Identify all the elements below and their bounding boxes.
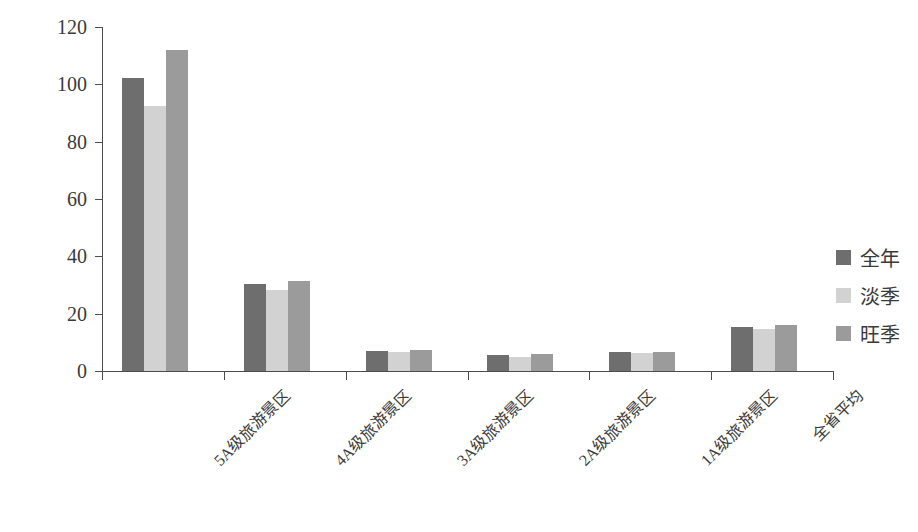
x-tick (346, 371, 347, 380)
bar-chart: 平均门票价格（元/景区） 020406080100120 5A级旅游景区4A级旅… (0, 0, 918, 532)
y-tick-label: 40 (67, 245, 87, 268)
chart-legend: 全年淡季旺季 (836, 238, 916, 352)
x-tick (711, 371, 712, 380)
bar (166, 50, 188, 371)
y-tick-label: 60 (67, 188, 87, 211)
x-axis-label: 全省平均 (805, 383, 867, 445)
x-axis-label: 5A级旅游景区 (207, 383, 294, 470)
y-tick-label: 20 (67, 303, 87, 326)
bar (388, 352, 410, 371)
bar (753, 329, 775, 371)
bar (410, 350, 432, 371)
bar (244, 284, 266, 371)
bar-group (487, 27, 553, 371)
legend-label: 旺季 (860, 319, 900, 348)
bar (266, 290, 288, 371)
plot-area (102, 27, 832, 371)
bar-group (244, 27, 310, 371)
legend-swatch (836, 288, 851, 303)
bar (609, 352, 631, 371)
bar-group (366, 27, 432, 371)
bar (509, 357, 531, 371)
x-axis-label: 4A级旅游景区 (329, 383, 416, 470)
legend-item: 旺季 (836, 314, 916, 352)
x-axis-label: 3A级旅游景区 (450, 383, 537, 470)
bar (366, 351, 388, 371)
bar (731, 327, 753, 371)
y-axis-title: 平均门票价格（元/景区） (10, 0, 50, 40)
x-axis-label: 1A级旅游景区 (694, 383, 781, 470)
y-tick-label: 0 (77, 360, 87, 383)
x-axis-label: 2A级旅游景区 (572, 383, 659, 470)
y-tick-label: 80 (67, 131, 87, 154)
legend-label: 淡季 (860, 281, 900, 310)
y-tick-label: 100 (57, 73, 87, 96)
x-tick (224, 371, 225, 380)
x-tick (833, 371, 834, 380)
bar (122, 78, 144, 371)
bar (487, 355, 509, 371)
bar (288, 281, 310, 371)
bar-group (609, 27, 675, 371)
x-tick (102, 371, 103, 380)
bar-group (122, 27, 188, 371)
bar-group (731, 27, 797, 371)
bar (653, 352, 675, 371)
y-tick-label: 120 (57, 16, 87, 39)
bar (631, 353, 653, 371)
x-tick (589, 371, 590, 380)
bar (531, 354, 553, 371)
bar (144, 106, 166, 371)
legend-item: 淡季 (836, 276, 916, 314)
legend-swatch (836, 250, 851, 265)
legend-label: 全年 (860, 243, 900, 272)
x-tick (468, 371, 469, 380)
legend-swatch (836, 326, 851, 341)
bar (775, 325, 797, 371)
legend-item: 全年 (836, 238, 916, 276)
